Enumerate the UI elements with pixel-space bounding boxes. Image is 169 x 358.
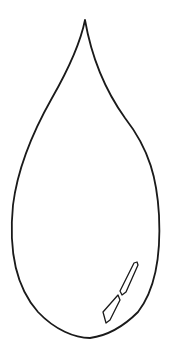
drop-outline bbox=[12, 20, 160, 338]
water-drop-drawing bbox=[0, 0, 169, 358]
highlight-upper bbox=[120, 262, 138, 295]
highlight-lower bbox=[103, 295, 120, 323]
